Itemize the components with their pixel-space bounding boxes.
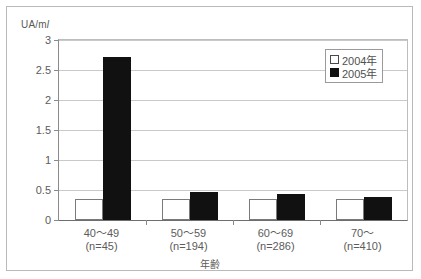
y-axis-tick — [54, 130, 59, 131]
y-axis-tick — [54, 220, 59, 221]
y-axis-tick — [54, 190, 59, 191]
x-axis-tick — [233, 220, 234, 225]
chart-legend: 2004年 2005年 — [325, 49, 383, 83]
legend-item-2005: 2005年 — [330, 66, 377, 79]
x-axis-category-label: 50～59(n=194) — [145, 227, 232, 253]
category-range-text: 50～59 — [171, 227, 206, 239]
legend-label-2005: 2005年 — [342, 65, 377, 81]
category-count-text: (n=194) — [145, 240, 232, 253]
bar-2004 — [75, 199, 103, 220]
bar-group — [162, 40, 218, 220]
y-axis-unit-litre-glyph: l — [47, 19, 49, 30]
white-square-swatch-icon — [330, 55, 339, 64]
chart-figure-frame: UA/ml 00.511.522.53 40～49(n=45)50～59(n=1… — [6, 6, 413, 271]
category-count-text: (n=286) — [232, 240, 319, 253]
bar-2005 — [364, 197, 392, 220]
y-axis-tick — [54, 40, 59, 41]
y-axis-tick-label: 1.5 — [36, 124, 51, 136]
y-axis-tick-label: 0.5 — [36, 184, 51, 196]
y-axis-tick-label: 0 — [45, 214, 51, 226]
y-axis-tick-label: 3 — [45, 34, 51, 46]
y-axis-tick — [54, 70, 59, 71]
bar-2005 — [190, 192, 218, 220]
y-axis-unit-label: UA/ml — [21, 19, 49, 30]
bar-2005 — [277, 194, 305, 220]
y-axis-tick-label: 2.5 — [36, 64, 51, 76]
category-range-text: 70～ — [351, 227, 374, 239]
x-axis-category-label: 40～49(n=45) — [58, 227, 145, 253]
bar-2005 — [103, 57, 131, 220]
category-count-text: (n=45) — [58, 240, 145, 253]
bar-2004 — [336, 199, 364, 220]
bar-2004 — [162, 199, 190, 220]
x-axis-title: 年齢 — [7, 256, 412, 271]
bar-group — [75, 40, 131, 220]
x-axis-category-label: 60～69(n=286) — [232, 227, 319, 253]
y-axis-tick — [54, 100, 59, 101]
x-axis-tick — [320, 220, 321, 225]
x-axis-tick — [146, 220, 147, 225]
category-range-text: 40～49 — [84, 227, 119, 239]
bar-group — [249, 40, 305, 220]
y-axis-tick-label: 2 — [45, 94, 51, 106]
y-axis-tick — [54, 160, 59, 161]
y-axis-tick-label: 1 — [45, 154, 51, 166]
black-square-swatch-icon — [330, 68, 339, 77]
bar-2004 — [249, 199, 277, 220]
y-axis-unit-text: UA/m — [21, 19, 47, 30]
x-axis-category-label: 70～(n=410) — [319, 227, 406, 253]
category-count-text: (n=410) — [319, 240, 406, 253]
category-range-text: 60～69 — [258, 227, 293, 239]
